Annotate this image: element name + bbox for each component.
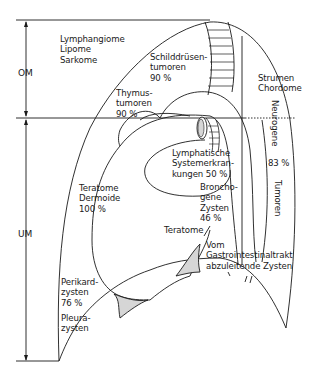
label-thymus: Thymus- tumoren 90 % — [116, 88, 152, 119]
pericardial-cyst — [114, 294, 148, 318]
um-label: UM — [18, 229, 32, 239]
om-label: OM — [18, 68, 33, 78]
label-teratome-dermoide: Teratome Dermoide 100 % — [79, 183, 120, 214]
label-lymphangiome: Lymphangiome Lipome Sarkome — [60, 34, 125, 65]
label-neurogene-pct: 83 % — [268, 158, 289, 168]
label-lymphatische: Lymphatische Systemerkran- kungen 50 % — [172, 148, 234, 179]
label-bronchogene: Broncho- gene Zysten 46 % — [200, 182, 238, 223]
label-gastro: Vom Gastrointestinaltrakt abzuleitende Z… — [206, 240, 293, 271]
label-pleura: Pleura- zysten — [61, 313, 91, 334]
label-neurogene: Neurogene — [270, 100, 280, 146]
label-tumoren: Tumoren — [273, 180, 283, 216]
label-schilddruesen: Schilddrüsen- tumoren 90 % — [150, 52, 207, 83]
label-perikard: Perikard- zysten 76 % — [61, 277, 98, 308]
label-teratome: Teratome — [164, 225, 203, 235]
label-strumen: Strumen Chordome — [258, 73, 302, 94]
gastro-cyst — [176, 244, 200, 276]
